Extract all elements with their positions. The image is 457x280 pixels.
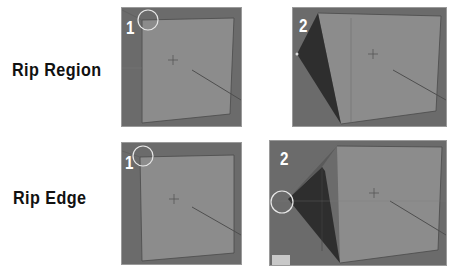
step-number: 2	[280, 149, 288, 168]
rip-edge-label: Rip Edge	[13, 187, 86, 209]
step-number: 1	[126, 18, 134, 37]
color-swatch	[272, 255, 290, 265]
step-number: 1	[125, 153, 133, 172]
ripped-cube-illustration	[293, 8, 446, 126]
ripped-edge-illustration	[270, 141, 446, 265]
rip-edge-step-1-viewport: 1	[122, 143, 241, 264]
rip-region-step-1-viewport: 1	[122, 8, 241, 126]
step-number: 2	[299, 16, 307, 35]
cube-illustration	[122, 8, 241, 126]
cube-illustration	[122, 143, 241, 264]
rip-region-step-2-viewport: 2	[293, 8, 446, 126]
rip-region-label: Rip Region	[12, 59, 101, 81]
rip-edge-step-2-viewport: 2	[270, 141, 446, 265]
